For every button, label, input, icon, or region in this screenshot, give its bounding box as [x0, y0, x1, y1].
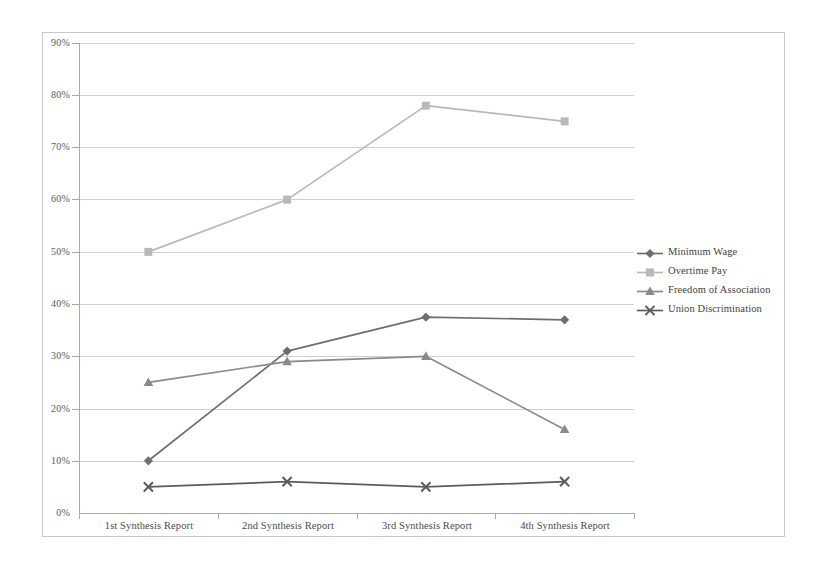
legend-label-freedom-of-association: Freedom of Association [668, 282, 771, 297]
y-axis-label-80: 80% [36, 90, 70, 100]
y-axis-label-0: 0% [36, 508, 70, 518]
x-tick-4 [634, 513, 635, 519]
x-axis-label-3: 3rd Synthesis Report [352, 520, 502, 532]
y-axis-label-50: 50% [36, 247, 70, 257]
legend-marker-cross-icon [637, 305, 663, 316]
y-axis-label-90: 90% [36, 38, 70, 48]
y-axis-label-60: 60% [36, 194, 70, 204]
legend-label-union-discrimination: Union Discrimination [668, 301, 762, 316]
legend-marker-diamond-icon [637, 248, 663, 259]
y-axis-label-70: 70% [36, 142, 70, 152]
legend-marker-triangle-icon [637, 286, 663, 297]
x-tick-2 [357, 513, 358, 519]
x-tick-1 [218, 513, 219, 519]
legend-label-overtime-pay: Overtime Pay [668, 263, 727, 278]
legend-item-overtime-pay[interactable]: Overtime Pay [637, 263, 787, 282]
legend-item-union-discrimination[interactable]: Union Discrimination [637, 301, 787, 320]
series-freedom-of-association [144, 351, 570, 433]
x-axis-label-2: 2nd Synthesis Report [213, 520, 363, 532]
y-axis-label-40: 40% [36, 299, 70, 309]
x-axis-label-4: 4th Synthesis Report [490, 520, 640, 532]
series-union-discrimination [144, 477, 569, 491]
y-axis-label-30: 30% [36, 351, 70, 361]
x-tick-0 [79, 513, 80, 519]
y-axis-label-10: 10% [36, 456, 70, 466]
legend-label-minimum-wage: Minimum Wage [668, 244, 737, 259]
legend-item-freedom-of-association[interactable]: Freedom of Association [637, 282, 787, 301]
chart-figure: 90% 80% 70% 60% 50% 40% 30% 20% 10% 0% 1… [0, 0, 833, 567]
x-axis-label-1: 1st Synthesis Report [74, 520, 224, 532]
series-minimum-wage [144, 313, 569, 466]
x-tick-3 [495, 513, 496, 519]
legend-item-minimum-wage[interactable]: Minimum Wage [637, 244, 787, 263]
y-axis-label-20: 20% [36, 404, 70, 414]
legend-marker-square-icon [637, 267, 663, 278]
series-overtime-pay [144, 102, 568, 256]
series-plot [79, 43, 634, 513]
chart-legend: Minimum Wage Overtime Pay Freedom of Ass… [637, 244, 787, 320]
